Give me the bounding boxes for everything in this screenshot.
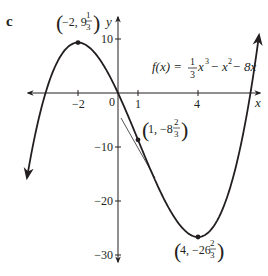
y-tick-label: −10 xyxy=(94,140,113,154)
fraction-numerator: 1 xyxy=(190,56,195,67)
paren-close: ) xyxy=(217,238,224,263)
fraction-numerator: 2 xyxy=(210,238,215,248)
cubic-graph: c x y 0 −2 1 4 10 −10 −20 −30 f(x) = 1 3… xyxy=(0,0,268,276)
y-tick-label: 10 xyxy=(101,32,113,46)
local-max-point xyxy=(76,40,81,45)
function-label: f(x) = 1 3 x 3 − x 2 − 8x xyxy=(152,56,257,80)
paren-close: ) xyxy=(93,10,100,35)
inflection-point xyxy=(136,137,141,142)
x-tick-label: 4 xyxy=(194,97,200,111)
fraction-denominator: 3 xyxy=(210,250,215,260)
fraction-numerator: 2 xyxy=(174,117,179,127)
x-axis-label: x xyxy=(254,95,261,110)
y-tick-label: −30 xyxy=(94,248,113,262)
paren-close: ) xyxy=(181,117,188,142)
local-min-label: ( 4, −26 2 3 ) xyxy=(174,238,224,263)
origin-label: 0 xyxy=(109,95,115,109)
fraction-denominator: 3 xyxy=(86,22,91,32)
inflection-label: ( 1, −8 2 3 ) xyxy=(142,117,188,142)
y-tick-label: −20 xyxy=(94,194,113,208)
y-axis-label: y xyxy=(104,14,112,29)
coord-text: 1, −8 xyxy=(148,122,173,136)
local-max-label: ( −2, 9 1 3 ) xyxy=(56,10,100,35)
coord-text: 4, −26 xyxy=(180,243,211,257)
exponent-3: 3 xyxy=(205,57,209,66)
fraction-denominator: 3 xyxy=(174,129,179,139)
fraction-denominator: 3 xyxy=(190,69,195,80)
x-tick-label: −2 xyxy=(72,97,85,111)
x-tick-label: 1 xyxy=(135,97,141,111)
local-min-point xyxy=(196,235,201,240)
coord-text: −2, 9 xyxy=(62,15,87,29)
term-x: x xyxy=(197,59,204,74)
term-8x: − 8x xyxy=(232,59,257,74)
function-prefix: f(x) = xyxy=(152,59,182,74)
term-x2: − x xyxy=(210,59,228,74)
fraction-numerator: 1 xyxy=(86,10,91,20)
panel-label: c xyxy=(6,13,13,29)
